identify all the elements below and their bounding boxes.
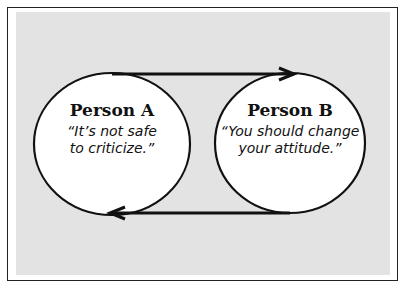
node-quote: “It’s not safe to criticize.”	[34, 123, 190, 157]
node-title: Person B	[210, 100, 370, 120]
node-quote: “You should change your attitude.”	[210, 123, 370, 157]
node-person-b: Person B “You should change your attitud…	[210, 100, 370, 157]
node-person-a: Person A “It’s not safe to criticize.”	[34, 100, 190, 157]
node-title: Person A	[34, 100, 190, 120]
